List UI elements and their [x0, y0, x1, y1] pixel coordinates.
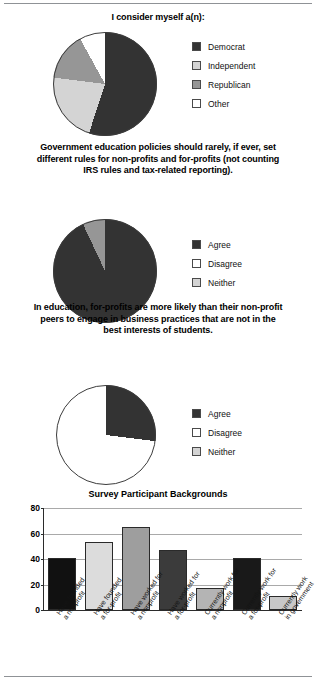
legend-item-agree: Agree — [192, 240, 242, 250]
pie-chart-party — [53, 32, 157, 136]
legend-label-independent: Independent — [208, 61, 255, 71]
chart-block-backgrounds: Survey Participant Backgrounds 80 60 40 … — [0, 489, 316, 689]
legend-practices: Agree Disagree Neither — [192, 409, 242, 457]
legend-swatch-neither — [192, 278, 201, 287]
top-divider-rule — [4, 3, 312, 4]
legend-swatch-disagree — [192, 428, 201, 437]
legend-policies: Agree Disagree Neither — [192, 240, 242, 288]
ytick-label-80: 80 — [31, 503, 40, 513]
legend-item-independent: Independent — [192, 61, 255, 71]
figure-page: I consider myself a(n): Democrat Indepen… — [0, 0, 316, 694]
chart-block-practices: In education, for-profits are more likel… — [0, 302, 316, 457]
chart-3-title: In education, for-profits are more likel… — [32, 302, 284, 337]
ytick-label-40: 40 — [31, 554, 40, 564]
legend-item-other: Other — [192, 99, 255, 109]
legend-swatch-neither — [192, 447, 201, 456]
legend-item-neither: Neither — [192, 278, 242, 288]
legend-label-other: Other — [208, 99, 229, 109]
legend-item-neither: Neither — [192, 447, 242, 457]
legend-swatch-disagree — [192, 259, 201, 268]
legend-label-neither: Neither — [208, 447, 235, 457]
bar-chart-title: Survey Participant Backgrounds — [0, 489, 316, 499]
ytick-label-60: 60 — [31, 529, 40, 539]
legend-swatch-independent — [192, 61, 201, 70]
legend-swatch-democrat — [192, 42, 201, 51]
chart-1-title: I consider myself a(n): — [32, 12, 284, 24]
chart-block-party: I consider myself a(n): Democrat Indepen… — [0, 12, 316, 139]
legend-item-democrat: Democrat — [192, 42, 255, 52]
legend-item-disagree: Disagree — [192, 428, 242, 438]
legend-label-agree: Agree — [208, 409, 231, 419]
chart-block-policies: Government education policies should rar… — [0, 142, 316, 297]
legend-swatch-agree — [192, 240, 201, 249]
legend-label-disagree: Disagree — [208, 428, 242, 438]
legend-label-neither: Neither — [208, 278, 235, 288]
legend-swatch-other — [192, 99, 201, 108]
chart-2-title: Government education policies should rar… — [32, 142, 284, 177]
ytick-mark-0 — [41, 610, 44, 611]
pie-chart-practices — [56, 385, 156, 485]
legend-label-democrat: Democrat — [208, 42, 245, 52]
ytick-label-0: 0 — [35, 605, 40, 615]
legend-label-republican: Republican — [208, 80, 251, 90]
legend-label-agree: Agree — [208, 240, 231, 250]
legend-swatch-agree — [192, 409, 201, 418]
legend-item-agree: Agree — [192, 409, 242, 419]
bar-chart-x-axis-labels: Have founded a nonprofit Have founded a … — [43, 612, 301, 682]
legend-swatch-republican — [192, 80, 201, 89]
legend-party: Democrat Independent Republican Other — [192, 42, 255, 109]
legend-item-republican: Republican — [192, 80, 255, 90]
legend-item-disagree: Disagree — [192, 259, 242, 269]
legend-label-disagree: Disagree — [208, 259, 242, 269]
ytick-label-20: 20 — [31, 580, 40, 590]
